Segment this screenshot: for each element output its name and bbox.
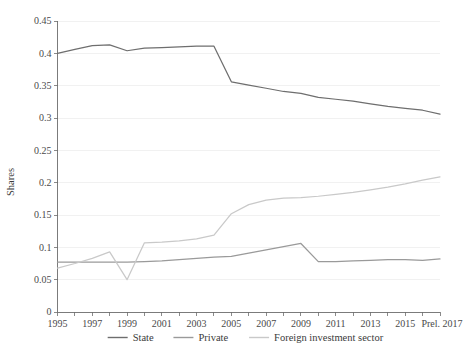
legend-label-state: State: [133, 332, 154, 343]
y-tick-label: 0.25: [34, 145, 52, 156]
x-tick-label: 1997: [82, 318, 102, 329]
x-tick-label: 2005: [221, 318, 241, 329]
x-axis-group: 1995199719992001200320052007200920112013…: [48, 312, 463, 329]
series-line-state: [58, 45, 441, 114]
y-tick-label: 0.35: [34, 80, 52, 91]
y-tick-label: 0.15: [34, 209, 52, 220]
x-tick-label: 2013: [360, 318, 380, 329]
x-tick-label: Prel. 2017: [421, 318, 462, 329]
y-axis-group: 00.050.10.150.20.250.30.350.40.45: [34, 15, 58, 317]
x-tick-label: 1999: [117, 318, 137, 329]
y-tick-label: 0.1: [39, 242, 52, 253]
x-tick-label: 2011: [326, 318, 346, 329]
y-tick-label: 0: [47, 306, 52, 317]
x-tick-label: 2001: [152, 318, 172, 329]
y-tick-label: 0.3: [39, 112, 52, 123]
y-axis-title: Shares: [5, 168, 16, 196]
gridlines-group: [58, 21, 441, 280]
x-tick-label: 2015: [395, 318, 415, 329]
y-tick-label: 0.4: [39, 48, 52, 59]
legend: StatePrivateForeign investment sector: [108, 332, 384, 343]
line-chart: 00.050.10.150.20.250.30.350.40.45 199519…: [0, 0, 463, 358]
legend-label-private: Private: [198, 332, 228, 343]
y-tick-label: 0.2: [39, 177, 52, 188]
legend-label-foreign-investment-sector: Foreign investment sector: [274, 332, 384, 343]
x-tick-label: 2003: [187, 318, 207, 329]
series-line-foreign-investment-sector: [58, 177, 441, 280]
x-tick-label: 1995: [48, 318, 68, 329]
y-tick-label: 0.45: [34, 15, 52, 26]
x-tick-label: 2009: [291, 318, 311, 329]
chart-canvas: 00.050.10.150.20.250.30.350.40.45 199519…: [0, 0, 463, 358]
x-tick-label: 2007: [256, 318, 276, 329]
y-tick-label: 0.05: [34, 274, 52, 285]
series-group: [58, 45, 441, 280]
